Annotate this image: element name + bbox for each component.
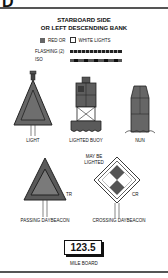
mile-board-label: MILE BOARD [64,261,104,266]
section-letter: D [2,0,14,11]
passing-daybeacon-icon [22,157,68,217]
crossing-daybeacon-icon [93,156,141,218]
nun-buoy-icon [124,84,156,136]
flashing-label: FLASHING (2) [35,49,64,54]
crossing-daybeacon-code: CR [132,192,139,197]
top-divider [0,7,168,9]
mile-board-value: 123.5 [70,242,95,253]
red-label: RED OR [48,38,66,43]
flashing-rhythm-icon [70,50,122,53]
color-legend: RED OR WHITE LIGHTS [40,37,111,43]
iso-label: ISO [35,57,43,62]
crossing-daybeacon-label: CROSSING DAYBEACON [86,218,152,223]
white-label: WHITE LIGHTS [79,38,111,43]
bottom-divider [0,271,168,273]
title-line-2: OR LEFT DESCENDING BANK [0,25,168,32]
red-swatch-icon [40,38,45,43]
iso-rhythm-icon [70,59,122,62]
light-structure-icon [10,70,56,136]
nun-label: NUN [128,138,152,143]
light-label: LIGHT [19,138,47,143]
white-swatch-icon [70,37,76,43]
lighted-buoy-icon [68,76,104,136]
lighted-buoy-label: LIGHTED BUOY [64,138,108,143]
passing-daybeacon-label: PASSING DAYBEACON [12,218,78,223]
passing-daybeacon-code: TR [66,192,72,197]
mile-board-sign: 123.5 [64,240,102,255]
title-line-1: STARBOARD SIDE [0,17,168,24]
